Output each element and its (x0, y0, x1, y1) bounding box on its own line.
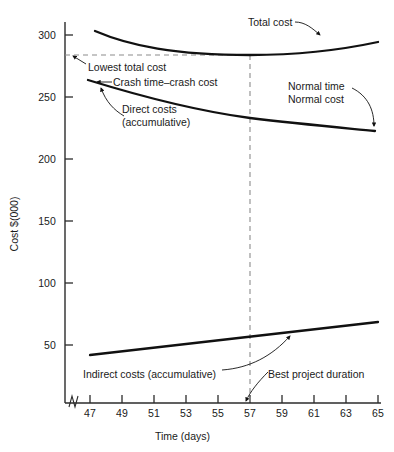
y-axis-ticks (65, 35, 73, 345)
leader-direct-costs (101, 88, 124, 116)
x-tick-label-55: 55 (205, 407, 231, 419)
annotation-normal-line1: Normal time (288, 80, 345, 93)
y-axis-title: Cost $(000) (8, 179, 20, 269)
x-tick-label-51: 51 (141, 407, 167, 419)
annotation-normal-time-normal-cost: Normal time Normal cost (288, 80, 345, 105)
series-total-cost (95, 31, 378, 55)
series-indirect-costs (90, 322, 378, 355)
cost-vs-time-chart: 300 250 200 150 100 50 47 49 51 53 55 57… (0, 0, 394, 452)
leader-best-project-duration (246, 372, 268, 401)
x-tick-label-59: 59 (269, 407, 295, 419)
y-tick-label-150: 150 (22, 215, 56, 227)
x-axis-break-icon (69, 396, 78, 407)
leader-total-cost (295, 22, 320, 35)
leader-lowest-total-cost (73, 56, 86, 64)
x-axis-title: Time (days) (155, 430, 210, 442)
annotation-indirect-costs: Indirect costs (accumulative) (83, 368, 216, 381)
annotation-normal-line2: Normal cost (288, 93, 345, 106)
y-tick-label-100: 100 (22, 277, 56, 289)
x-tick-label-57: 57 (237, 407, 263, 419)
annotation-crash-time-crash-cost: Crash time–crash cost (113, 76, 217, 89)
x-tick-label-65: 65 (365, 407, 391, 419)
x-tick-label-49: 49 (109, 407, 135, 419)
x-tick-label-61: 61 (301, 407, 327, 419)
annotation-lowest-total-cost: Lowest total cost (88, 61, 166, 74)
y-tick-label-300: 300 (22, 29, 56, 41)
leader-normal-time-normal-cost (352, 88, 374, 126)
annotation-best-project-duration: Best project duration (268, 368, 364, 381)
annotation-direct-costs: Direct costs (accumulative) (122, 103, 190, 128)
annotation-total-cost: Total cost (248, 16, 292, 29)
annotation-direct-costs-line1: Direct costs (122, 103, 190, 116)
x-tick-label-47: 47 (77, 407, 103, 419)
x-axis-ticks (90, 395, 378, 403)
y-tick-label-200: 200 (22, 153, 56, 165)
y-tick-label-250: 250 (22, 91, 56, 103)
y-tick-label-50: 50 (22, 339, 56, 351)
x-tick-label-53: 53 (173, 407, 199, 419)
chart-canvas (0, 0, 394, 452)
annotation-direct-costs-line2: (accumulative) (122, 116, 190, 129)
leader-indirect-costs (222, 336, 290, 370)
x-tick-label-63: 63 (333, 407, 359, 419)
